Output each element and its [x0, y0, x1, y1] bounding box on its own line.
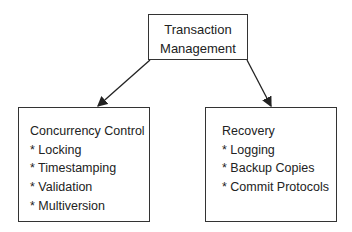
list-item: * Timestamping	[30, 159, 149, 178]
list-item: * Multiversion	[30, 197, 149, 216]
list-item: * Locking	[30, 141, 149, 160]
list-item: * Logging	[222, 141, 336, 160]
arrow-to-recovery	[247, 60, 271, 106]
node-recovery: Recovery * Logging * Backup Copies * Com…	[205, 107, 337, 222]
node-concurrency-control: Concurrency Control * Locking * Timestam…	[18, 107, 150, 222]
list-item: * Validation	[30, 178, 149, 197]
arrow-to-concurrency	[98, 60, 150, 106]
node-label: Transaction	[149, 21, 247, 40]
list-item: * Commit Protocols	[222, 178, 336, 197]
node-title: Recovery	[222, 122, 336, 141]
node-label: Management	[149, 40, 247, 59]
node-title: Concurrency Control	[30, 122, 149, 141]
list-item: * Backup Copies	[222, 159, 336, 178]
node-transaction-management: Transaction Management	[148, 14, 248, 60]
